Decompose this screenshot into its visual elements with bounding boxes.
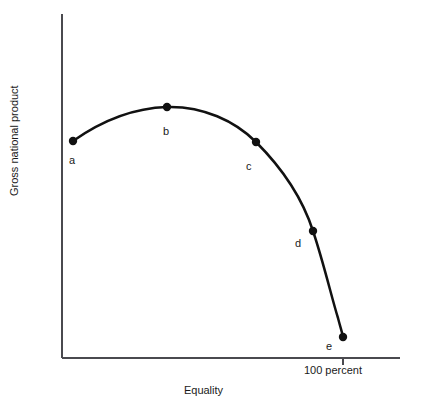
x-axis-tick-label-100-percent: 100 percent <box>304 365 362 376</box>
tradeoff-curve <box>73 107 343 337</box>
data-point-label-d: d <box>295 238 301 249</box>
gnp-equality-tradeoff-figure: abcde Gross national product Equality 10… <box>0 0 423 404</box>
data-point-markers <box>69 103 347 341</box>
chart-plot-area <box>0 0 423 404</box>
data-point-a <box>69 137 77 145</box>
data-point-b <box>163 103 171 111</box>
data-point-label-c: c <box>246 161 252 172</box>
data-point-c <box>252 138 260 146</box>
y-axis-label: Gross national product <box>9 85 20 196</box>
data-point-label-e: e <box>326 341 332 352</box>
data-point-d <box>309 227 317 235</box>
data-point-e <box>339 333 347 341</box>
data-point-label-a: a <box>69 155 75 166</box>
x-axis-label: Equality <box>0 385 415 396</box>
data-point-label-b: b <box>163 126 169 137</box>
